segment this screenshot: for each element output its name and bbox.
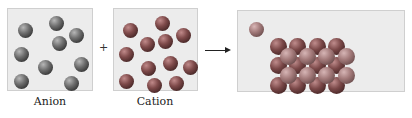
anion-particle — [14, 74, 29, 89]
lattice-light-particle — [318, 67, 335, 84]
lattice-light-particle — [299, 67, 316, 84]
anion-particle — [49, 16, 64, 31]
free-particle — [249, 22, 264, 37]
reaction-arrow-head-icon — [225, 47, 231, 53]
reaction-arrow — [205, 50, 227, 51]
cation-particle — [155, 16, 170, 31]
cation-particle — [119, 47, 134, 62]
anion-particle — [38, 60, 53, 75]
anion-label: Anion — [20, 95, 80, 108]
product-box — [237, 10, 405, 92]
anion-particle — [64, 76, 79, 91]
lattice-light-particle — [280, 48, 297, 65]
cation-particle — [119, 74, 134, 89]
lattice-light-particle — [280, 67, 297, 84]
cation-particle — [123, 23, 138, 38]
plus-operator: + — [99, 41, 108, 54]
cation-particle — [183, 60, 198, 75]
lattice-light-particle — [338, 67, 355, 84]
cation-box — [113, 8, 198, 91]
anion-particle — [52, 36, 67, 51]
lattice-light-particle — [318, 48, 335, 65]
cation-particle — [141, 61, 156, 76]
anion-box — [7, 8, 93, 91]
cation-particle — [163, 56, 178, 71]
cation-label: Cation — [125, 95, 185, 108]
cation-particle — [169, 76, 184, 91]
anion-particle — [14, 47, 29, 62]
cation-particle — [140, 37, 155, 52]
cation-particle — [147, 78, 162, 93]
lattice-light-particle — [338, 48, 355, 65]
anion-particle — [69, 28, 84, 43]
cation-particle — [176, 28, 191, 43]
anion-particle — [18, 23, 33, 38]
cation-particle — [158, 34, 173, 49]
lattice-light-particle — [299, 48, 316, 65]
anion-particle — [74, 57, 89, 72]
